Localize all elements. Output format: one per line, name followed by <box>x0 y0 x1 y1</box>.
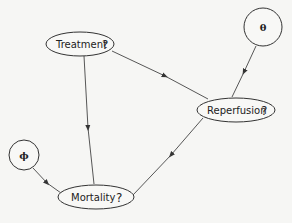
influence-diagram: Treatment ? θ Reperfusion ? ϕ Mortality … <box>0 0 292 223</box>
edge-treatment-to-mortality <box>84 56 94 184</box>
node-theta[interactable]: θ <box>244 8 282 46</box>
phi-symbol: ϕ <box>19 150 28 161</box>
node-treatment-question: ? <box>102 38 108 52</box>
theta-symbol: θ <box>260 22 267 33</box>
node-mortality-question: ? <box>116 191 122 205</box>
node-treatment[interactable]: Treatment ? <box>46 32 114 56</box>
node-reperfusion-question: ? <box>261 104 267 118</box>
node-mortality[interactable]: Mortality ? <box>58 185 134 209</box>
node-treatment-label: Treatment <box>55 39 107 50</box>
edge-phi-to-mortality <box>33 168 61 193</box>
node-phi[interactable]: ϕ <box>9 140 39 170</box>
node-mortality-label: Mortality <box>71 192 115 203</box>
edge-treatment-to-reperfusion <box>112 51 208 99</box>
edge-reperfusion-to-mortality <box>133 118 203 195</box>
node-reperfusion-label: Reperfusion <box>207 105 267 116</box>
edge-theta-to-reperfusion <box>232 46 256 97</box>
node-reperfusion[interactable]: Reperfusion ? <box>197 98 275 122</box>
